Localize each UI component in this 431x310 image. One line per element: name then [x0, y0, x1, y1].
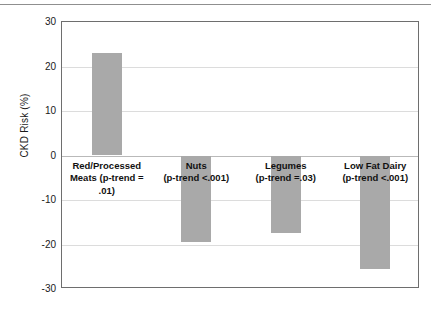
y-tick-label: 10 [20, 105, 56, 116]
y-tick-label: 0 [20, 149, 56, 160]
plot-area: Red/Processed Meats (p-trend = .01)Nuts … [61, 21, 419, 288]
bar-label: Nuts (p-trend <.001) [152, 160, 242, 185]
y-axis-tick-labels: 3020100-10-20-30 [20, 21, 56, 288]
bar-category-labels: Red/Processed Meats (p-trend = .01)Nuts … [62, 22, 418, 287]
y-tick-label: -10 [20, 194, 56, 205]
bar-label: Low Fat Dairy (p-trend <.001) [331, 160, 421, 185]
bar-label: Legumes (p-trend =.03) [241, 160, 331, 185]
y-tick-label: -20 [20, 238, 56, 249]
y-tick-label: -30 [20, 283, 56, 294]
y-tick-label: 30 [20, 16, 56, 27]
y-tick-label: 20 [20, 60, 56, 71]
top-divider-rule [0, 4, 431, 5]
bar-label: Red/Processed Meats (p-trend = .01) [62, 160, 152, 198]
